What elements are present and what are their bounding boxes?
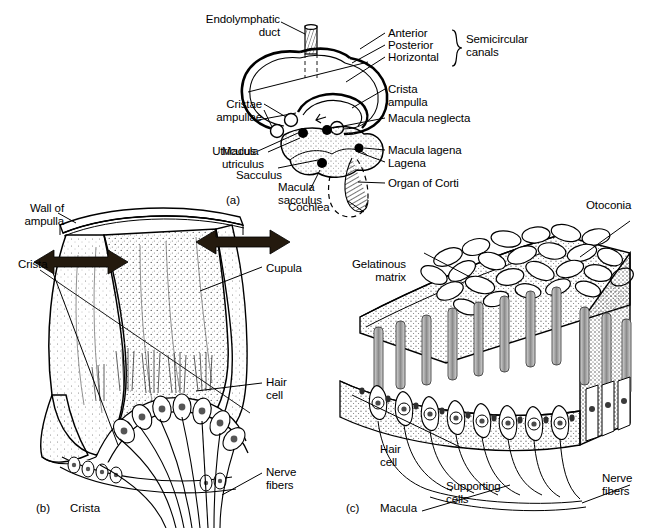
label-endolymphatic-duct: Endolymphatic duct xyxy=(176,13,280,38)
label-otoconia: Otoconia xyxy=(586,199,631,212)
label-crista-b: Crista xyxy=(18,258,47,271)
label-cupula: Cupula xyxy=(266,262,302,275)
label-nerve-fibers-b: Nerve fibers xyxy=(266,466,296,491)
label-supporting-cells: Supporting cells xyxy=(446,480,501,505)
panel-c-caption: Macula xyxy=(380,502,417,514)
panel-b-caption: Crista xyxy=(70,502,100,514)
label-sacculus: Sacculus xyxy=(236,169,282,182)
label-gelatinous-matrix: Gelatinous matrix xyxy=(332,258,406,283)
label-macula-utriculus: Macula utriculus xyxy=(222,145,264,170)
label-posterior: Posterior xyxy=(388,39,433,52)
label-organ-of-corti: Organ of Corti xyxy=(388,177,459,190)
label-hair-cell-c: Hair cell xyxy=(380,443,401,468)
label-hair-cell-b: Hair cell xyxy=(266,376,287,401)
label-macula-neglecta: Macula neglecta xyxy=(388,112,470,125)
panel-letter-b: (b) xyxy=(36,502,50,514)
inner-ear-figure: Endolymphatic duct Anterior Posterior Ho… xyxy=(0,0,662,528)
label-macula-lagena: Macula lagena xyxy=(388,144,462,157)
panel-letter-c: (c) xyxy=(346,502,359,514)
label-horizontal: Horizontal xyxy=(388,51,439,64)
label-nerve-fibers-c: Nerve fibers xyxy=(602,472,632,497)
semicircular-canals-brace xyxy=(452,30,462,66)
label-wall-of-ampulla: Wall of ampulla xyxy=(4,202,64,227)
label-cristae-ampullae: Cristae ampullae xyxy=(190,98,262,123)
label-anterior: Anterior xyxy=(388,27,427,40)
label-lagena: Lagena xyxy=(388,157,426,170)
label-crista-ampulla: Crista ampulla xyxy=(388,83,428,108)
label-semicircular-canals: Semicircular canals xyxy=(466,33,528,58)
